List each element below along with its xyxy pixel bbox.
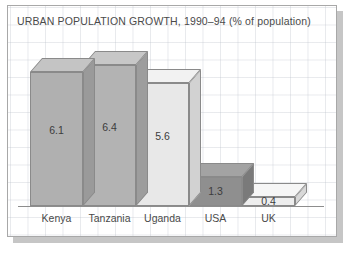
category-label-tanzania: Tanzania (79, 212, 140, 224)
category-label-usa: USA (185, 212, 246, 224)
chart-panel: URBAN POPULATION GROWTH, 1990–94 (% of p… (7, 5, 337, 237)
category-axis: UKUSAUgandaTanzaniaKenya (18, 212, 328, 234)
category-label-uk: UK (238, 212, 299, 224)
plot-area: 0.41.35.66.46.1 (18, 36, 328, 206)
bar-side-face (83, 58, 95, 206)
bar-side-face (189, 69, 201, 206)
category-label-uganda: Uganda (132, 212, 193, 224)
chart-title: URBAN POPULATION GROWTH, 1990–94 (% of p… (17, 15, 311, 27)
bar-value-label: 6.1 (30, 124, 83, 136)
bar-kenya: 6.1 (30, 72, 83, 206)
bar-side-face (136, 51, 148, 206)
urban-population-growth-chart: URBAN POPULATION GROWTH, 1990–94 (% of p… (0, 0, 357, 258)
category-label-kenya: Kenya (26, 212, 87, 224)
bar-front-face (30, 72, 83, 206)
bar-uk: 0.4 (242, 197, 295, 206)
